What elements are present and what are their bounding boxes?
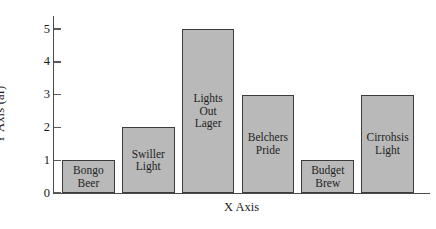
- x-axis-title: X Axis: [53, 200, 430, 215]
- bar-label: Lights Out Lager: [192, 92, 223, 130]
- y-axis-title: Y Axis (af): [0, 0, 22, 229]
- bar-label: Cirrohsis Light: [365, 131, 409, 156]
- plot-area: Bongo BeerSwiller LightLights Out LagerB…: [53, 16, 430, 193]
- bar[interactable]: Belchers Pride: [242, 95, 295, 193]
- y-tick-label: 0: [30, 187, 50, 200]
- y-tick-label: 4: [30, 55, 50, 68]
- bar-label: Belchers Pride: [247, 131, 289, 156]
- bar[interactable]: Lights Out Lager: [182, 29, 235, 193]
- bar-chart: Y Axis (af) 012345 Bongo BeerSwiller Lig…: [0, 0, 436, 229]
- y-tick-label: 2: [30, 121, 50, 134]
- y-tick-label: 1: [30, 154, 50, 167]
- bar[interactable]: Cirrohsis Light: [361, 95, 414, 193]
- bar[interactable]: Swiller Light: [122, 127, 175, 193]
- bar[interactable]: Bongo Beer: [62, 160, 115, 193]
- y-tick-label: 5: [30, 23, 50, 36]
- y-tick-label: 3: [30, 88, 50, 101]
- bar-label: Bongo Beer: [72, 164, 105, 189]
- x-axis-line: [53, 193, 430, 194]
- bar-label: Budget Brew: [310, 164, 345, 189]
- bar-label: Swiller Light: [131, 148, 166, 173]
- bar[interactable]: Budget Brew: [301, 160, 354, 193]
